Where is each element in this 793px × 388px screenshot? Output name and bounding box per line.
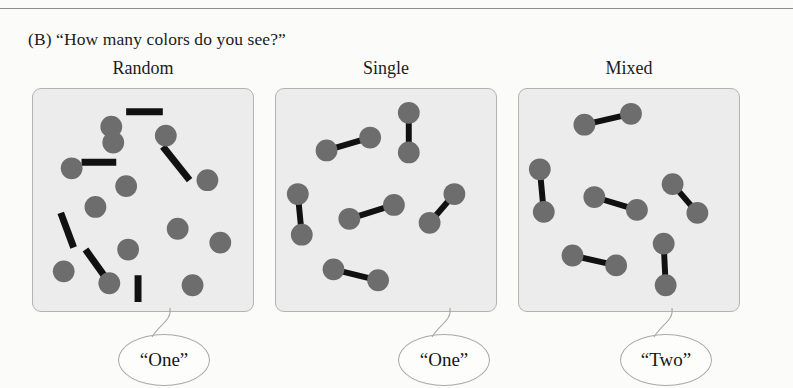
response-bubble-random-label: “One” [140, 349, 189, 371]
bubble-tail-random [140, 308, 188, 338]
single-dot-0a [316, 140, 338, 162]
random-bar-4 [86, 250, 106, 278]
mixed-dot-3a [662, 173, 684, 195]
single-dot-1b [398, 142, 420, 164]
random-dot-3 [115, 175, 137, 197]
mixed-dot-3b [686, 202, 708, 224]
panel-title-random: Random [32, 58, 254, 79]
mixed-dot-0b [620, 103, 642, 125]
mixed-dot-4a [562, 245, 584, 267]
random-dots-group [53, 116, 231, 296]
single-dot-4a [419, 212, 441, 234]
random-dot-8 [117, 239, 139, 261]
random-dot-9 [53, 260, 75, 282]
single-stimulus-canvas [276, 89, 496, 311]
single-dot-5a [323, 258, 345, 280]
response-bubble-mixed-label: “Two” [641, 349, 691, 371]
stimulus-panel-mixed[interactable] [518, 88, 740, 312]
mixed-dot-2b [626, 199, 648, 221]
top-divider [0, 8, 793, 9]
single-dots-group [287, 102, 465, 291]
mixed-dot-5a [653, 233, 675, 255]
single-dot-1a [398, 102, 420, 124]
stimulus-panel-random[interactable] [32, 88, 254, 312]
response-bubble-random[interactable]: “One” [118, 334, 210, 386]
response-bubble-single[interactable]: “One” [398, 334, 490, 386]
mixed-dot-4b [605, 255, 627, 277]
random-stimulus-canvas [33, 89, 253, 311]
mixed-dot-1a [529, 158, 551, 180]
single-dot-2a [287, 183, 309, 205]
single-dot-4b [443, 183, 465, 205]
single-dot-0b [359, 127, 381, 149]
mixed-dot-1b [533, 201, 555, 223]
panel-title-mixed: Mixed [518, 58, 740, 79]
random-dot-5 [85, 196, 107, 218]
random-dot-6 [167, 218, 189, 240]
response-bubble-single-label: “One” [420, 349, 469, 371]
single-dot-3b [383, 194, 405, 216]
random-dot-0 [61, 157, 83, 179]
mixed-dot-0a [574, 114, 596, 136]
random-dot-12 [100, 116, 122, 138]
random-dot-10 [98, 272, 120, 294]
mixed-dots-group [529, 103, 708, 296]
random-dot-2 [155, 125, 177, 147]
mixed-stimulus-canvas [519, 89, 739, 311]
figure-caption: (B) “How many colors do you see?” [28, 29, 286, 50]
figure-panel-b: (B) “How many colors do you see?” Random… [0, 0, 793, 388]
bubble-tail-single [420, 308, 468, 338]
panel-title-single: Single [275, 58, 497, 79]
stimulus-panel-single[interactable] [275, 88, 497, 312]
single-dot-5b [367, 269, 389, 291]
random-dot-7 [209, 232, 231, 254]
mixed-dot-5b [655, 274, 677, 296]
single-dot-2b [291, 224, 313, 246]
response-bubble-mixed[interactable]: “Two” [620, 334, 712, 386]
random-dot-11 [182, 274, 204, 296]
random-dot-4 [197, 169, 219, 191]
mixed-dot-2a [583, 186, 605, 208]
random-bar-3 [61, 213, 74, 248]
single-dot-3a [338, 208, 360, 230]
random-bar-2 [163, 146, 190, 180]
bubble-tail-mixed [642, 308, 690, 338]
